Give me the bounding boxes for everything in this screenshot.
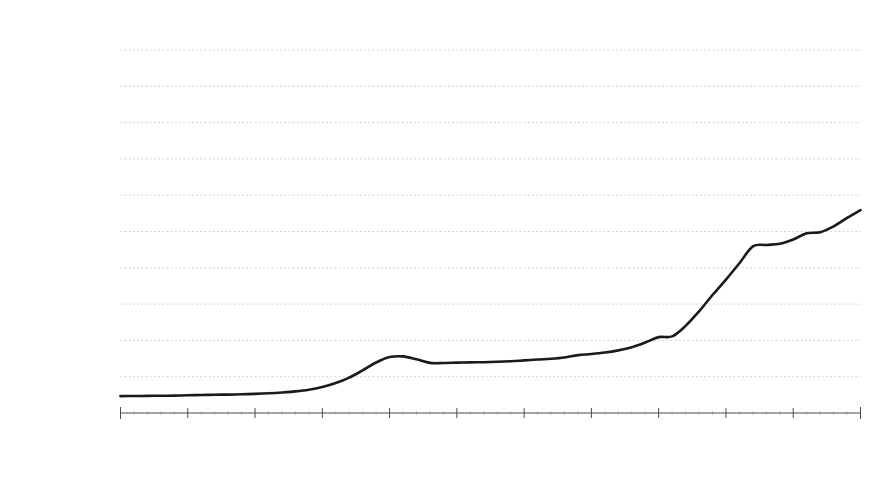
- chart-container: [0, 0, 890, 477]
- x-axis-tick-labels: [0, 0, 890, 477]
